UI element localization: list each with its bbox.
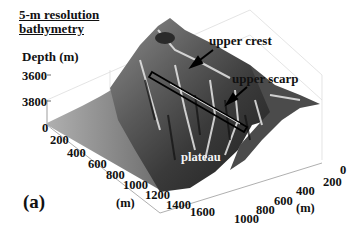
- panel-label: (a): [23, 191, 45, 213]
- z-axis-label: Depth (m): [22, 49, 79, 65]
- y-tick-1000: 1000: [234, 212, 259, 227]
- title-line-2: bathymetry: [19, 22, 99, 36]
- x-tick-600: 600: [88, 157, 107, 172]
- y-tick-400: 400: [296, 184, 315, 199]
- x-tick-400: 400: [67, 146, 86, 161]
- annotation-plateau: plateau: [181, 150, 221, 165]
- z-tick-3600: 3600: [22, 69, 47, 84]
- x-tick-800: 800: [106, 168, 125, 183]
- title-line-1: 5-m resolution: [19, 8, 99, 22]
- figure-title: 5-m resolution bathymetry: [19, 8, 99, 36]
- x-axis-unit: (m): [116, 196, 135, 211]
- x-tick-0: 0: [42, 121, 48, 136]
- x-tick-1600: 1600: [190, 205, 215, 220]
- x-tick-1400: 1400: [166, 198, 191, 213]
- y-axis-unit: (m): [296, 201, 315, 216]
- annotation-upper-crest: upper crest: [209, 33, 272, 49]
- y-tick-200: 200: [323, 175, 342, 190]
- x-tick-200: 200: [50, 133, 69, 148]
- z-tick-3800: 3800: [22, 95, 47, 110]
- annotation-upper-scarp: upper scarp: [232, 71, 299, 87]
- y-tick-600: 600: [274, 194, 293, 209]
